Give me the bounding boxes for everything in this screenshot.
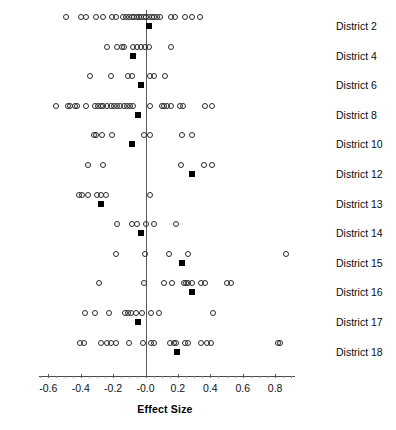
data-point-circle bbox=[79, 192, 85, 198]
data-point-circle bbox=[148, 310, 154, 316]
data-point-circle bbox=[202, 103, 208, 109]
data-point-circle bbox=[87, 73, 93, 79]
data-point-circle bbox=[106, 310, 112, 316]
x-axis-minor-tick bbox=[186, 376, 187, 378]
x-axis-minor-tick bbox=[170, 376, 171, 378]
data-point-circle bbox=[185, 340, 191, 346]
data-point-circle bbox=[189, 14, 195, 20]
x-axis-minor-tick bbox=[235, 376, 236, 378]
data-point-circle bbox=[113, 251, 119, 257]
data-point-circle bbox=[63, 14, 69, 20]
data-point-circle bbox=[197, 14, 203, 20]
data-point-circle bbox=[185, 251, 191, 257]
data-point-circle bbox=[157, 14, 163, 20]
data-point-circle bbox=[147, 103, 153, 109]
data-point-circle bbox=[228, 280, 234, 286]
x-axis-minor-tick bbox=[129, 376, 130, 378]
x-axis-tick bbox=[81, 374, 82, 378]
x-axis-tick-label: -0.4 bbox=[72, 382, 90, 394]
data-point-circle bbox=[114, 221, 120, 227]
data-point-circle bbox=[209, 103, 215, 109]
data-point-circle bbox=[189, 280, 195, 286]
district-label-1: District 2 bbox=[336, 20, 377, 32]
data-point-circle bbox=[179, 132, 185, 138]
x-axis-tick bbox=[113, 374, 114, 378]
x-axis-minor-tick bbox=[267, 376, 268, 378]
district-label-12: District 18 bbox=[336, 346, 383, 358]
data-point-circle bbox=[100, 162, 106, 168]
data-point-circle bbox=[113, 340, 119, 346]
data-point-circle bbox=[178, 162, 184, 168]
district-mean-marker bbox=[138, 230, 144, 236]
x-axis-tick-label: -0.6 bbox=[39, 382, 57, 394]
data-point-circle bbox=[93, 14, 99, 20]
data-point-circle bbox=[169, 280, 175, 286]
district-mean-marker bbox=[98, 201, 104, 207]
data-point-circle bbox=[151, 340, 157, 346]
data-point-circle bbox=[156, 310, 162, 316]
district-label-10: District 16 bbox=[336, 286, 383, 298]
data-point-circle bbox=[108, 73, 114, 79]
data-point-circle bbox=[210, 310, 216, 316]
data-point-circle bbox=[172, 14, 178, 20]
data-point-circle bbox=[133, 310, 139, 316]
x-axis-minor-tick bbox=[121, 376, 122, 378]
data-point-circle bbox=[168, 103, 174, 109]
x-axis-tick bbox=[275, 374, 276, 378]
x-axis-tick-label: 0.2 bbox=[171, 382, 186, 394]
data-point-circle bbox=[126, 340, 132, 346]
x-axis-tick-label: 0.8 bbox=[268, 382, 283, 394]
x-axis-minor-tick bbox=[194, 376, 195, 378]
district-mean-marker bbox=[135, 319, 141, 325]
data-point-circle bbox=[99, 132, 105, 138]
data-point-circle bbox=[92, 310, 98, 316]
x-axis-title: Effect Size bbox=[0, 403, 330, 415]
data-point-circle bbox=[139, 310, 145, 316]
data-point-circle bbox=[83, 103, 89, 109]
x-axis-tick-label: -0.2 bbox=[104, 382, 122, 394]
data-point-circle bbox=[277, 340, 283, 346]
data-point-circle bbox=[147, 132, 153, 138]
data-point-circle bbox=[166, 251, 172, 257]
data-point-circle bbox=[85, 192, 91, 198]
district-label-4: District 8 bbox=[336, 109, 377, 121]
data-point-circle bbox=[98, 340, 104, 346]
data-point-circle bbox=[151, 221, 157, 227]
data-point-circle bbox=[147, 192, 153, 198]
district-mean-marker bbox=[135, 112, 141, 118]
data-point-circle bbox=[141, 132, 147, 138]
x-axis-tick-label: 0.4 bbox=[203, 382, 218, 394]
x-axis-minor-tick bbox=[105, 376, 106, 378]
x-axis-tick bbox=[146, 374, 147, 378]
x-axis-minor-tick bbox=[202, 376, 203, 378]
data-point-circle bbox=[134, 221, 140, 227]
plot-area: -0.6-0.4-0.2-0.00.20.40.60.8 bbox=[0, 0, 330, 380]
data-point-circle bbox=[104, 44, 110, 50]
district-mean-marker bbox=[138, 82, 144, 88]
data-point-circle bbox=[161, 280, 167, 286]
data-point-circle bbox=[85, 162, 91, 168]
data-point-circle bbox=[100, 14, 106, 20]
district-mean-marker bbox=[189, 171, 195, 177]
data-point-circle bbox=[146, 44, 152, 50]
data-point-circle bbox=[162, 73, 168, 79]
data-point-circle bbox=[109, 132, 115, 138]
data-point-circle bbox=[82, 310, 88, 316]
data-point-circle bbox=[202, 280, 208, 286]
district-label-3: District 6 bbox=[336, 79, 377, 91]
district-label-11: District 17 bbox=[336, 316, 383, 328]
data-point-circle bbox=[201, 162, 207, 168]
x-axis-tick-label: 0.6 bbox=[235, 382, 250, 394]
data-point-circle bbox=[182, 14, 188, 20]
x-axis-minor-tick bbox=[154, 376, 155, 378]
district-mean-marker bbox=[146, 23, 152, 29]
x-axis-minor-tick bbox=[251, 376, 252, 378]
district-mean-marker bbox=[129, 141, 135, 147]
data-point-circle bbox=[208, 340, 214, 346]
data-point-circle bbox=[53, 103, 59, 109]
district-label-2: District 4 bbox=[336, 50, 377, 62]
data-point-circle bbox=[283, 251, 289, 257]
x-axis-minor-tick bbox=[291, 376, 292, 378]
district-mean-marker bbox=[174, 349, 180, 355]
data-point-circle bbox=[103, 192, 109, 198]
